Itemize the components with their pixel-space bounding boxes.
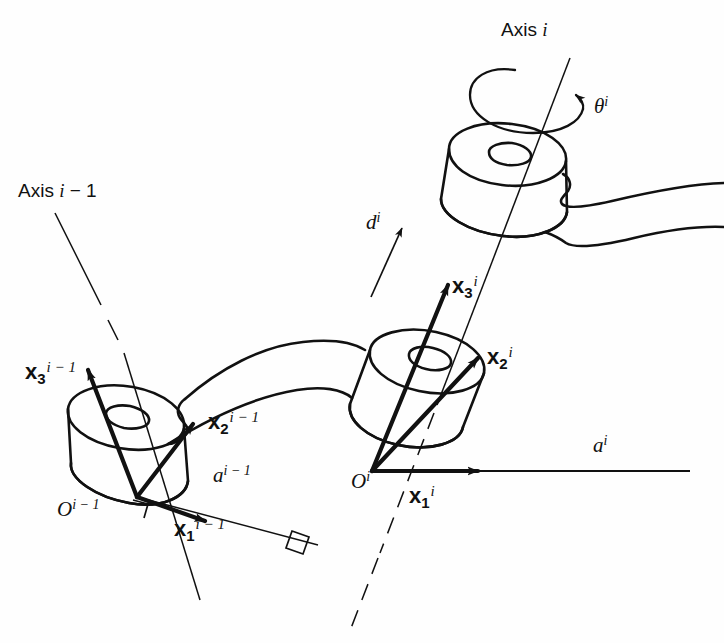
axis-i-minus-1-label: Axis i − 1 [18, 181, 97, 200]
revolute-joint-cylinder-upper [441, 123, 567, 237]
link-outgoing-right [545, 174, 724, 246]
x3-i-label: x3i [452, 274, 478, 300]
link-between-joints [168, 341, 365, 444]
revolute-joint-cylinder-current [350, 330, 485, 448]
origin-i-label: Oi [351, 470, 370, 492]
d-i-label: di [366, 211, 380, 233]
x3-i-minus-1-label: x3i − 1 [25, 360, 76, 386]
x2-i-label: x2i [487, 345, 513, 371]
x2-i-minus-1-label: x2i − 1 [208, 410, 259, 436]
x1-i-minus-1-label: x1i − 1 [174, 517, 225, 543]
axis-i-label: Axis i [501, 20, 547, 39]
origin-i-minus-1-label: Oi − 1 [57, 498, 100, 520]
kinematics-diagram-svg [0, 0, 724, 643]
axis-i-line [348, 58, 570, 636]
x1-i-label: x1i [409, 484, 435, 510]
a-i-minus-1-label: ai − 1 [213, 464, 251, 486]
d-i-offset-arrow [371, 228, 402, 297]
theta-i-label: θi [594, 95, 608, 117]
a-i-label: ai [593, 434, 607, 456]
figure-canvas: Axis i − 1 Axis i θi di ai − 1 ai Oi − 1… [0, 0, 724, 643]
